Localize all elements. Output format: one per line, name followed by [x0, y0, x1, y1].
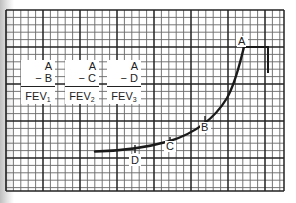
point-label-d: D	[130, 155, 140, 166]
point-label-c: C	[165, 141, 175, 152]
point-label-a: A	[237, 36, 246, 47]
fev3-numerator-d: − D	[107, 72, 141, 84]
fev1-numerator-b: − B	[21, 72, 55, 84]
fev3-denominator: FEV3	[107, 90, 141, 106]
fev1-label-box: A − B FEV1	[21, 60, 55, 104]
fraction-rule	[21, 86, 55, 87]
fev2-label-box: A − C FEV2	[65, 60, 99, 104]
fev3-numerator-a: A	[107, 60, 141, 72]
fraction-rule	[107, 86, 141, 87]
fev2-numerator-a: A	[65, 60, 99, 72]
fev2-denominator: FEV2	[65, 90, 99, 106]
fraction-rule	[65, 86, 99, 87]
fev2-numerator-c: − C	[65, 72, 99, 84]
point-label-b: B	[200, 122, 209, 133]
fev1-numerator-a: A	[21, 60, 55, 72]
fev1-denominator: FEV1	[21, 90, 55, 106]
fev3-label-box: A − D FEV3	[107, 60, 141, 104]
